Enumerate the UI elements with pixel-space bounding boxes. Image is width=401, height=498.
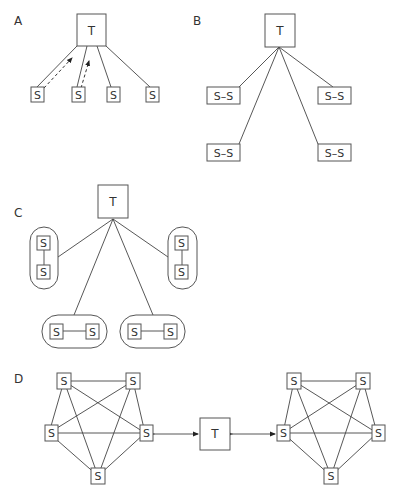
student-node: S [277, 425, 290, 441]
student-node: S [140, 425, 153, 441]
svg-text:S: S [40, 266, 47, 279]
panel-c: C T S S S S [14, 185, 197, 348]
student-node: S [45, 425, 58, 441]
svg-text:S–S: S–S [214, 90, 233, 103]
left-cluster-edges [49, 381, 145, 476]
svg-text:S: S [360, 375, 367, 388]
teacher-node: T [98, 185, 128, 218]
student-node: S [146, 87, 159, 102]
teacher-node: T [200, 418, 230, 450]
svg-text:S–S: S–S [325, 90, 344, 103]
svg-text:T: T [108, 195, 117, 209]
student-pair-node: S–S [207, 144, 240, 161]
right-cluster-edges [283, 381, 377, 476]
svg-text:S: S [75, 89, 82, 102]
student-node: S [57, 373, 71, 389]
svg-text:T: T [87, 24, 96, 38]
svg-text:T: T [210, 427, 219, 441]
student-node: S [287, 373, 301, 389]
panel-b: B T S–S S–S S–S S–S [193, 14, 351, 161]
svg-text:S: S [375, 427, 382, 440]
panel-d-label: D [14, 372, 23, 386]
svg-text:S: S [149, 89, 156, 102]
teacher-node: T [77, 14, 106, 46]
student-pair-node: S–S [318, 144, 351, 161]
student-node: S [72, 87, 85, 102]
panel-a-label: A [14, 14, 23, 28]
svg-text:S: S [178, 266, 185, 279]
student-pair-group: S S [42, 315, 107, 348]
student-node: S [356, 373, 370, 389]
student-node: S [126, 373, 140, 389]
student-node: S [91, 468, 105, 484]
student-pair-group: S S [120, 315, 185, 348]
student-pair-node: S–S [318, 87, 351, 104]
request-arrow [44, 58, 72, 88]
svg-text:S: S [291, 375, 298, 388]
svg-text:T: T [275, 24, 284, 38]
svg-text:S: S [34, 89, 41, 102]
svg-text:S: S [143, 427, 150, 440]
panel-b-label: B [193, 14, 201, 28]
student-pair-group: S S [30, 227, 58, 289]
svg-text:S: S [130, 375, 137, 388]
student-node: S [324, 468, 338, 484]
svg-text:S: S [48, 427, 55, 440]
svg-text:S: S [280, 427, 287, 440]
svg-text:S: S [178, 237, 185, 250]
svg-text:S: S [89, 326, 96, 339]
teacher-node: T [265, 14, 295, 47]
student-node: S [31, 87, 44, 102]
svg-text:S: S [53, 326, 60, 339]
panel-d: D [14, 372, 385, 484]
panel-a: A T S S S S [14, 14, 159, 102]
svg-text:S: S [40, 237, 47, 250]
svg-text:S: S [95, 470, 102, 483]
svg-text:S: S [328, 470, 335, 483]
svg-text:S–S: S–S [325, 147, 344, 160]
svg-text:S–S: S–S [214, 147, 233, 160]
svg-text:S: S [110, 89, 117, 102]
svg-text:S: S [131, 326, 138, 339]
panel-c-label: C [14, 206, 22, 220]
student-node: S [107, 87, 120, 102]
svg-text:S: S [61, 375, 68, 388]
student-pair-group: S S [168, 227, 197, 289]
svg-text:S: S [167, 326, 174, 339]
network-topology-diagram: A T S S S S B [0, 0, 401, 498]
student-node: S [372, 425, 385, 441]
student-pair-node: S–S [207, 87, 240, 104]
